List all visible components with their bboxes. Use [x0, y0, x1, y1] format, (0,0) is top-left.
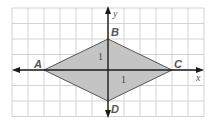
vertex-label-b: B: [111, 26, 119, 38]
x-unit-tick-label: 1: [121, 74, 126, 85]
vertex-label-d: D: [111, 103, 119, 115]
vertex-label-a: A: [33, 58, 42, 70]
x-axis-label: x: [195, 72, 201, 83]
y-unit-tick-label: 1: [98, 51, 103, 62]
coordinate-plane: A B C D x y 1 1: [0, 0, 219, 124]
y-axis-label: y: [112, 8, 118, 19]
vertex-label-c: C: [174, 58, 183, 70]
